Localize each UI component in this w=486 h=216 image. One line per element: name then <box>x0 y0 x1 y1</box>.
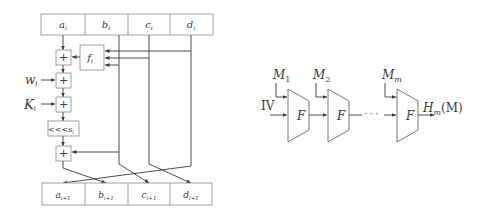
iv-label: IV <box>261 99 275 113</box>
adder-1: + <box>56 50 71 65</box>
ellipsis: · · · <box>364 109 378 119</box>
function-f-box: fi <box>80 45 104 70</box>
output-hash-label: Hm(M) <box>422 101 463 117</box>
block-mm-label: Mm <box>381 68 402 84</box>
svg-text:F: F <box>405 109 415 123</box>
diagram-canvas: ai bi ci di + fi + wi <box>0 0 486 216</box>
merkle-damgard-diagram: M1 M2 Mm IV F F · · · F Hm(M) <box>261 68 463 142</box>
block-m1-label: M1 <box>272 68 290 84</box>
md5-step-diagram: ai bi ci di + fi + wi <box>23 14 213 205</box>
svg-text:F: F <box>296 109 306 123</box>
compression-f-m: F <box>397 89 418 142</box>
svg-text:+: + <box>59 147 68 160</box>
adder-4: + <box>56 146 71 161</box>
block-m2-label: M2 <box>312 68 330 84</box>
svg-text:F: F <box>336 109 346 123</box>
adder-3: + <box>56 97 71 112</box>
compression-f-2: F <box>328 89 349 142</box>
compression-f-1: F <box>288 89 309 142</box>
input-w: wi <box>25 73 38 88</box>
svg-text:+: + <box>59 51 68 64</box>
state-register-in: ai bi ci di <box>41 14 213 35</box>
svg-text:+: + <box>59 74 68 87</box>
rotate-box: <<<si <box>48 121 79 136</box>
state-register-out: ai+1 bi+1 ci+1 di+1 <box>42 183 212 205</box>
input-k: Ki <box>23 97 36 113</box>
svg-text:<<<si: <<<si <box>48 125 74 135</box>
svg-text:+: + <box>59 98 68 111</box>
adder-2: + <box>56 73 71 88</box>
